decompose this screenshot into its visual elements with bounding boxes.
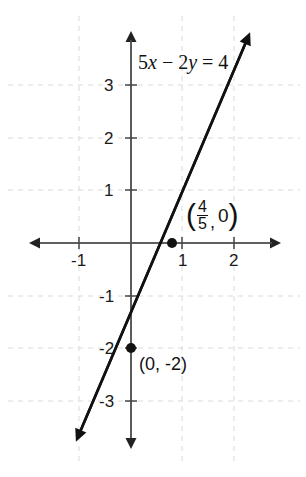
x-tick-label-minus-1: -1: [71, 252, 86, 269]
equation-constant: 4: [218, 51, 228, 73]
coordinate-comma: ,: [210, 213, 215, 231]
x-intercept-annotation: ( 4 5 , 0 ): [186, 199, 239, 233]
equation-equals: =: [202, 51, 213, 73]
y-tick-label-minus-3: -3: [99, 393, 114, 410]
y-tick-label-minus-2: -2: [99, 340, 114, 357]
y-tick-label-2: 2: [104, 130, 113, 147]
point-marker-y-intercept: [126, 343, 136, 353]
x-tick-label-2: 2: [229, 252, 238, 269]
equation-annotation: 5x − 2y = 4: [138, 52, 228, 72]
close-paren: ): [229, 200, 239, 230]
y-intercept-annotation: (0, -2): [139, 355, 187, 373]
equation-var-x: x: [148, 51, 157, 73]
point-marker-x-intercept: [167, 238, 177, 248]
y-tick-label-3: 3: [104, 77, 113, 94]
equation-minus: −: [162, 51, 173, 73]
open-paren: (: [186, 200, 196, 230]
equation-coef-y: 2: [178, 51, 188, 73]
equation-coef-x: 5: [138, 51, 148, 73]
y-tick-label-minus-1: -1: [99, 288, 114, 305]
y-tick-label-1: 1: [104, 182, 113, 199]
fraction-four-fifths: 4 5: [197, 199, 208, 233]
fraction-numerator: 4: [197, 199, 208, 215]
coordinate-graph: 3 2 1 -1 -2 -3 -1 1 2 5x − 2y = 4 ( 4 5 …: [0, 0, 306, 477]
fraction-denominator: 5: [197, 215, 208, 232]
coordinate-zero: 0: [218, 206, 229, 225]
equation-var-y: y: [188, 51, 197, 73]
x-tick-label-1: 1: [178, 252, 187, 269]
